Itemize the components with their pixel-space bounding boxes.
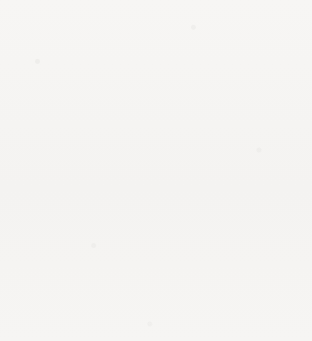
bar-northeast-09	[62, 92, 100, 283]
group-separator-tick	[170, 283, 171, 289]
bar-year-northeast-10: '10	[100, 265, 138, 277]
bar-chart: 10% 8% 6% 4% 2% 0% 7.3 '09 9.1 '10 6.7 '…	[0, 0, 312, 341]
category-label-united-states: United States as a whole	[166, 293, 286, 323]
y-axis-tick-label-2: 2%	[22, 225, 38, 237]
y-axis-tick-label-8: 8%	[22, 68, 38, 80]
bar-year-us-09: '09	[188, 265, 226, 277]
bar-value-northeast-10: 9.1	[100, 54, 138, 68]
bar-value-northeast-09: 7.3	[62, 101, 100, 115]
bar-year-us-10: '10	[226, 265, 264, 277]
y-axis-top-cap	[47, 17, 48, 22]
y-axis-tick-label-6: 6%	[22, 120, 38, 132]
y-axis-tick-label-4: 4%	[22, 173, 38, 185]
y-axis-tick-label-0: 0%	[22, 277, 38, 289]
category-label-northeast: The northeast region	[40, 293, 160, 323]
category-label-united-states-line1: United States	[166, 293, 286, 308]
y-axis-line	[47, 22, 48, 283]
bar-northeast-10	[100, 45, 138, 283]
bar-us-09	[188, 108, 226, 283]
category-label-northeast-line2: region	[40, 308, 160, 323]
y-axis-tick-label-10: 10%	[16, 16, 38, 28]
bar-value-us-09: 6.7	[188, 117, 226, 131]
bar-year-northeast-09: '09	[62, 265, 100, 277]
category-label-northeast-line1: The northeast	[40, 293, 160, 308]
bar-us-10	[226, 90, 264, 283]
category-label-united-states-line2: as a whole	[166, 308, 286, 323]
x-axis-baseline	[47, 283, 295, 284]
gridline-6-percent	[48, 126, 295, 127]
x-axis-right-cap	[295, 278, 296, 283]
bar-value-us-10: 7.4	[226, 99, 264, 113]
